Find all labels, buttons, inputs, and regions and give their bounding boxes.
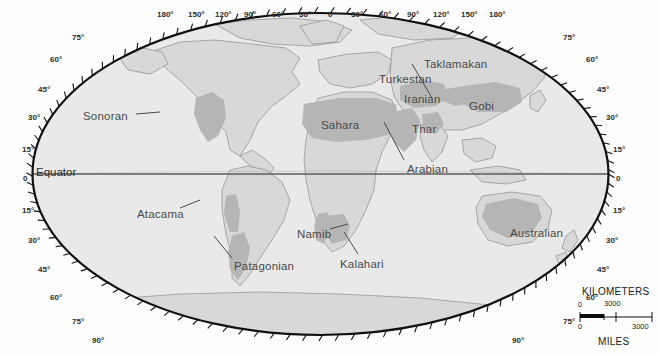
latitude-tick-label-right: 45° (597, 265, 609, 274)
latitude-tick-label-left: 0 (23, 174, 27, 183)
scale-km-zero: 0 (578, 300, 582, 309)
desert-label-sahara: Sahara (321, 119, 359, 131)
latitude-tick-label-left: 60° (50, 293, 62, 302)
longitude-tick-label: 180° (157, 10, 174, 19)
desert-label-gobi: Gobi (469, 100, 494, 112)
desert-label-australian: Australian (510, 227, 563, 239)
latitude-tick-label-left: 45° (38, 85, 50, 94)
latitude-tick-label-left: 45° (38, 265, 50, 274)
desert-label-sonoran: Sonoran (83, 110, 128, 122)
desert-label-arabian: Arabian (407, 163, 448, 175)
desert-label-iranian: Iranian (404, 93, 441, 105)
longitude-tick-label: 60° (379, 10, 391, 19)
longitude-tick-label: 0 (328, 10, 332, 19)
scale-bar-graphic (580, 312, 652, 322)
scale-miles-label: MILES (598, 336, 630, 347)
desert-label-thar: Thar (412, 123, 436, 135)
latitude-tick-label-left: 30° (28, 236, 40, 245)
latitude-tick-label-left: 75° (72, 33, 84, 42)
desert-label-atacama: Atacama (137, 208, 184, 220)
scale-kilometers-label: KILOMETERS (582, 286, 649, 297)
desert-label-turkestan: Turkestan (379, 73, 432, 85)
desert-label-patagonian: Patagonian (234, 260, 294, 272)
longitude-tick-label: 150° (188, 10, 205, 19)
longitude-tick-label: 30° (299, 10, 311, 19)
latitude-tick-label-left: 60° (50, 55, 62, 64)
latitude-tick-label-left: 30° (28, 113, 40, 122)
scale-miles-zero: 0 (578, 322, 582, 331)
latitude-tick-label-right: 75° (563, 317, 575, 326)
latitude-tick-label-right: 0 (616, 174, 620, 183)
map-graphic (0, 0, 658, 356)
longitude-tick-label: 180° (489, 10, 506, 19)
latitude-tick-label-right: 15° (613, 145, 625, 154)
latitude-tick-label-right: 90° (512, 336, 524, 345)
latitude-tick-label-right: 60° (586, 55, 598, 64)
longitude-tick-label: 150° (461, 10, 478, 19)
world-deserts-map-figure: SonoranSaharaTurkestanTaklamakanIranianG… (0, 0, 658, 356)
desert-label-namib: Namib (297, 228, 331, 240)
longitude-tick-label: 90° (407, 10, 419, 19)
longitude-tick-label: 120° (215, 10, 232, 19)
latitude-tick-label-right: 45° (597, 85, 609, 94)
equator-label: Equator (36, 166, 76, 178)
scale-km-max: 3000 (604, 299, 621, 308)
latitude-tick-label-right: 75° (563, 33, 575, 42)
longitude-tick-label: 90° (244, 10, 256, 19)
latitude-tick-label-left: 75° (72, 317, 84, 326)
latitude-tick-label-left: 90° (92, 336, 104, 345)
longitude-tick-label: 120° (433, 10, 450, 19)
desert-label-kalahari: Kalahari (340, 258, 384, 270)
latitude-tick-label-left: 15° (22, 206, 34, 215)
desert-label-taklamakan: Taklamakan (424, 58, 487, 70)
longitude-tick-label: 60° (272, 10, 284, 19)
scale-miles-max: 3000 (632, 322, 649, 331)
latitude-tick-label-left: 15° (22, 145, 34, 154)
latitude-tick-label-right: 30° (606, 236, 618, 245)
latitude-tick-label-right: 30° (606, 113, 618, 122)
latitude-tick-label-right: 15° (613, 206, 625, 215)
longitude-tick-label: 30° (351, 10, 363, 19)
